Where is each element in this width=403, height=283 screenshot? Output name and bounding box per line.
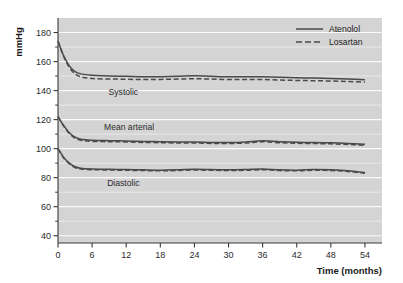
y-tick-label: 40 <box>41 231 51 241</box>
y-tick-label: 100 <box>36 144 51 154</box>
legend-label-losartan: Losartan <box>329 37 363 47</box>
y-tick-label: 80 <box>41 173 51 183</box>
x-tick-label: 24 <box>189 250 199 260</box>
annotation-mean-arterial: Mean arterial <box>104 122 154 132</box>
y-tick-label: 140 <box>36 86 51 96</box>
y-axis-title: mmHg <box>13 27 24 57</box>
annotation-systolic: Systolic <box>109 87 139 97</box>
x-axis-title: Time (months) <box>317 265 382 276</box>
x-tick-label: 36 <box>258 250 268 260</box>
x-tick-label: 48 <box>326 250 336 260</box>
x-tick-label: 30 <box>224 250 234 260</box>
x-tick-label: 54 <box>360 250 370 260</box>
y-tick-label: 120 <box>36 115 51 125</box>
y-tick-label: 180 <box>36 28 51 38</box>
x-tick-label: 12 <box>121 250 131 260</box>
y-tick-label: 160 <box>36 57 51 67</box>
chart-canvas: 406080100120140160180061218243036424854T… <box>0 0 403 283</box>
x-tick-label: 42 <box>292 250 302 260</box>
x-tick-label: 6 <box>90 250 95 260</box>
blood-pressure-chart-figure: 406080100120140160180061218243036424854T… <box>0 0 403 283</box>
y-tick-label: 60 <box>41 202 51 212</box>
annotation-diastolic: Diastolic <box>107 178 140 188</box>
x-tick-label: 18 <box>155 250 165 260</box>
x-tick-label: 0 <box>55 250 60 260</box>
legend-label-atenolol: Atenolol <box>329 24 360 34</box>
